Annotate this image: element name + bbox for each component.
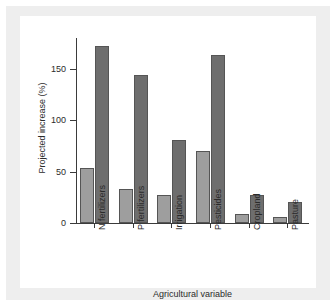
x-category-label: Irrigation [175,195,184,230]
x-tick-mark [249,224,250,228]
x-tick-mark [94,224,95,228]
x-category-label: N fertilizers [98,185,107,230]
x-axis-line [76,223,309,224]
x-axis-title: Agricultural variable [76,289,309,299]
y-tick-label: 0 [36,219,66,228]
bar [157,195,171,223]
chart-card: 050100150 Projected increase (%) N ferti… [6,6,330,300]
bar [80,168,94,224]
x-category-label: Pesticides [214,189,223,230]
y-tick-mark [70,172,76,173]
x-tick-mark [171,224,172,228]
plot-panel: 050100150 Projected increase (%) N ferti… [20,16,316,288]
x-tick-mark [210,224,211,228]
x-category-label: Pasture [291,199,300,230]
x-category-label: Cropland [253,193,262,230]
bar [119,189,133,223]
bar-group [273,38,302,223]
y-tick-mark [70,69,76,70]
bar [273,217,287,223]
y-tick-mark [70,223,76,224]
x-tick-mark [287,224,288,228]
y-axis-title: Projected increase (%) [37,63,47,193]
bar-series-group [77,38,309,223]
x-category-label: P fertilizers [137,186,146,230]
x-tick-mark [133,224,134,228]
bar [196,151,210,223]
bar [235,214,249,223]
y-tick-mark [70,120,76,121]
